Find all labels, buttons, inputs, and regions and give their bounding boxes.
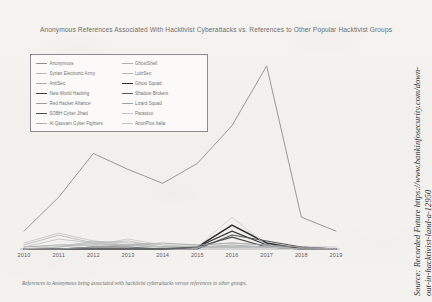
legend-color-swatch xyxy=(122,83,133,84)
legend-item[interactable]: AntiSec xyxy=(36,79,118,88)
x-axis-tick-label: 2014 xyxy=(156,252,169,258)
source-citation-line-2: out-in-hacktivist-land-a-12950 xyxy=(424,190,432,296)
legend-column-left: AnonymousSyrian Electronic ArmyAntiSecNe… xyxy=(36,59,118,128)
x-axis-tick-label: 2018 xyxy=(295,252,308,258)
x-axis-tick-label: 2019 xyxy=(330,252,343,258)
legend-item[interactable]: Parastoo xyxy=(122,109,204,118)
legend-item[interactable]: Syrian Electronic Army xyxy=(36,69,118,78)
legend-item-label: SOBH Cyber Jihad xyxy=(50,111,88,116)
legend-item-label: Syrian Electronic Army xyxy=(50,71,96,76)
legend-color-swatch xyxy=(122,63,133,64)
legend-item-label: AntiSec xyxy=(50,81,66,86)
legend-item-label: Anonymous xyxy=(50,61,74,66)
legend-item[interactable]: LulzSec xyxy=(122,69,204,78)
legend-item-label: Lizard Squad xyxy=(135,101,162,106)
legend-item-label: AnonPlus Italia xyxy=(135,121,165,126)
x-axis-tick-label: 2010 xyxy=(18,252,31,258)
legend-item-label: Al Qassam Cyber Fighters xyxy=(50,121,103,126)
legend-item[interactable]: Shadow Brokers xyxy=(122,89,204,98)
chart-legend: AnonymousSyrian Electronic ArmyAntiSecNe… xyxy=(30,54,208,132)
legend-item[interactable]: AnonPlus Italia xyxy=(122,119,204,128)
legend-item[interactable]: Ghost Squad xyxy=(122,79,204,88)
legend-color-swatch xyxy=(36,73,47,74)
chart-title: Anonymous References Associated With Hac… xyxy=(0,26,432,33)
figure-caption: References to Anonymous being associated… xyxy=(22,280,247,286)
x-axis-tick-label: 2013 xyxy=(122,252,135,258)
legend-item[interactable]: SOBH Cyber Jihad xyxy=(36,109,118,118)
legend-item[interactable]: New World Hacking xyxy=(36,89,118,98)
source-citation-line-1: Source: Recorded Future https://www.bank… xyxy=(413,67,422,296)
x-axis-tick-labels: 2010201120122013201420152016201720182019 xyxy=(20,252,340,266)
legend-item-label: Parastoo xyxy=(135,111,153,116)
legend-item[interactable]: GhostShell xyxy=(122,59,204,68)
x-axis-tick-label: 2015 xyxy=(191,252,204,258)
legend-color-swatch xyxy=(122,123,133,124)
legend-item-label: GhostShell xyxy=(135,61,157,66)
legend-color-swatch xyxy=(36,83,47,84)
legend-item-label: Red Hacker Alliance xyxy=(50,101,91,106)
x-axis-tick-label: 2012 xyxy=(87,252,100,258)
legend-color-swatch xyxy=(36,103,47,104)
legend-item[interactable]: Anonymous xyxy=(36,59,118,68)
legend-color-swatch xyxy=(36,113,47,114)
legend-color-swatch xyxy=(36,63,47,64)
legend-color-swatch xyxy=(36,123,47,124)
legend-column-right: GhostShellLulzSecGhost SquadShadow Broke… xyxy=(118,59,204,128)
legend-color-swatch xyxy=(36,93,47,94)
legend-item[interactable]: Al Qassam Cyber Fighters xyxy=(36,119,118,128)
legend-item[interactable]: Lizard Squad xyxy=(122,99,204,108)
legend-item-label: New World Hacking xyxy=(50,91,90,96)
x-axis-tick-label: 2017 xyxy=(260,252,273,258)
legend-color-swatch xyxy=(122,73,133,74)
legend-item-label: Ghost Squad xyxy=(135,81,162,86)
legend-item-label: Shadow Brokers xyxy=(135,91,168,96)
legend-color-swatch xyxy=(122,93,133,94)
legend-color-swatch xyxy=(122,103,133,104)
legend-item[interactable]: Red Hacker Alliance xyxy=(36,99,118,108)
x-axis-tick-label: 2011 xyxy=(52,252,64,258)
legend-color-swatch xyxy=(122,113,133,114)
legend-item-label: LulzSec xyxy=(135,71,151,76)
x-axis-tick-label: 2016 xyxy=(226,252,239,258)
source-citation: Source: Recorded Future https://www.bank… xyxy=(402,0,430,302)
